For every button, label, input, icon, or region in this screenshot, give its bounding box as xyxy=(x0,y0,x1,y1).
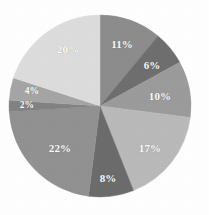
pie-slice-label: 10% xyxy=(149,91,171,102)
pie-slice-label: 17% xyxy=(139,143,161,154)
pie-slice-label: 20% xyxy=(57,44,79,55)
pie-slice-label: 22% xyxy=(49,143,71,154)
pie-slices-group xyxy=(9,15,191,197)
pie-slice-label: 11% xyxy=(111,39,133,50)
pie-slice-label: 4% xyxy=(25,87,39,97)
pie-chart: 11%6%10%17%8%22%2%4%20% xyxy=(0,0,209,215)
pie-slice-label: 8% xyxy=(100,173,117,184)
pie-slice-label: 2% xyxy=(20,101,34,111)
pie-slice-label: 6% xyxy=(144,60,161,71)
